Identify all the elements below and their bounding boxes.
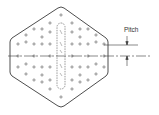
slot-marks bbox=[60, 30, 62, 76]
hex-plate-diagram bbox=[0, 0, 159, 115]
pitch-dimension-arrows bbox=[126, 36, 128, 66]
hexagonal-plate-outline bbox=[10, 7, 108, 107]
pitch-label: Pitch bbox=[124, 26, 138, 33]
